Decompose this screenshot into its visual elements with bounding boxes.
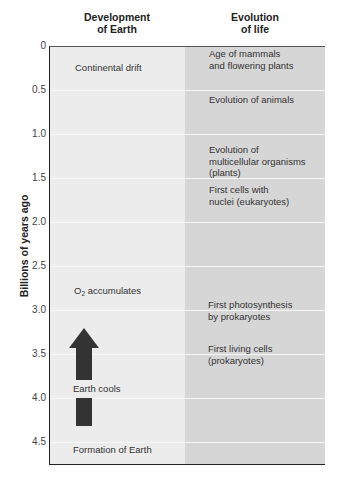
gridline-4.5 — [50, 442, 325, 443]
label-multicellular-organisms: Evolution of multicellular organisms (pl… — [209, 144, 306, 179]
tick-0.5: 0.5 — [16, 84, 46, 95]
header-line: Evolution — [200, 11, 310, 23]
label-line: Age of mammals — [209, 48, 294, 60]
label-o2-accumulates: O2 accumulates — [74, 285, 141, 300]
tick-2.5: 2.5 — [16, 260, 46, 271]
label-line: and flowering plants — [209, 60, 294, 72]
label-line: multicellular organisms — [209, 156, 306, 168]
gridline-0.5 — [50, 90, 325, 91]
label-line: Evolution of animals — [209, 94, 294, 106]
gridline-2.0 — [50, 222, 325, 223]
label-line: First living cells — [208, 343, 272, 355]
label-line: (plants) — [209, 167, 306, 179]
label-line: First cells with — [209, 184, 289, 196]
label-line: nuclei (eukaryotes) — [209, 196, 289, 208]
earth-column — [50, 47, 185, 464]
label-first-living-cells: First living cells (prokaryotes) — [208, 343, 272, 366]
gridline-2.5 — [50, 266, 325, 267]
arrow-tail — [76, 398, 92, 426]
label-first-photosynthesis: First photosynthesis by prokaryotes — [208, 299, 292, 322]
y-axis-title: Billions of years ago — [18, 186, 30, 306]
label-earth-cools: Earth cools — [73, 383, 121, 395]
tick-4.5: 4.5 — [16, 436, 46, 447]
header-development-of-earth: Development of Earth — [62, 11, 172, 35]
header-line: of life — [200, 23, 310, 35]
label-evolution-of-animals: Evolution of animals — [209, 94, 294, 106]
gridline-1.0 — [50, 134, 325, 135]
tick-3.0: 3.0 — [16, 304, 46, 315]
tick-0: 0 — [16, 40, 46, 51]
label-age-of-mammals: Age of mammals and flowering plants — [209, 48, 294, 71]
label-line: by prokaryotes — [208, 311, 292, 323]
label-line: (prokaryotes) — [208, 355, 272, 367]
tick-1.5: 1.5 — [16, 172, 46, 183]
o2-suffix: accumulates — [85, 285, 141, 296]
header-evolution-of-life: Evolution of life — [200, 11, 310, 35]
arrow-shaft — [76, 347, 92, 380]
label-line: First photosynthesis — [208, 299, 292, 311]
tick-1.0: 1.0 — [16, 128, 46, 139]
label-continental-drift: Continental drift — [75, 62, 142, 74]
life-column — [185, 47, 325, 464]
label-eukaryotes: First cells with nuclei (eukaryotes) — [209, 184, 289, 207]
label-line: Evolution of — [209, 144, 306, 156]
tick-2.0: 2.0 — [16, 216, 46, 227]
tick-4.0: 4.0 — [16, 392, 46, 403]
header-line: Development — [62, 11, 172, 23]
header-line: of Earth — [62, 23, 172, 35]
label-formation-of-earth: Formation of Earth — [73, 444, 152, 456]
tick-3.5: 3.5 — [16, 348, 46, 359]
up-arrow-icon — [69, 328, 99, 348]
